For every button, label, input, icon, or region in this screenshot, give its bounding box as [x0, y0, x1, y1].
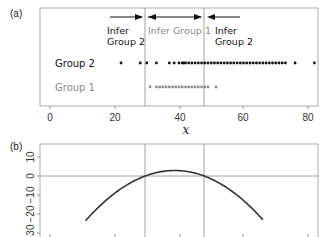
data-point [252, 62, 255, 65]
data-point [187, 86, 190, 89]
data-point [278, 62, 281, 65]
data-point [203, 62, 206, 65]
data-point [210, 62, 213, 65]
data-point [181, 86, 184, 89]
data-point [184, 86, 187, 89]
data-point [207, 86, 210, 89]
x-axis-label: x [183, 123, 190, 137]
data-point [197, 62, 200, 65]
arrow-head-left-icon-2 [207, 14, 215, 20]
y-tick-0: 0 [25, 173, 36, 179]
data-point [171, 86, 174, 89]
data-point [242, 62, 245, 65]
data-point [200, 62, 203, 65]
infer-mid: Infer Group 1 [148, 25, 211, 36]
data-point [268, 62, 271, 65]
x-tick-0: 0 [47, 112, 53, 123]
data-point [229, 62, 232, 65]
data-point [203, 86, 206, 89]
data-point [274, 62, 277, 65]
data-point [223, 62, 226, 65]
infer-left-line2: Group 2 [107, 36, 145, 47]
data-point [162, 86, 165, 89]
panel-b-label: (b) [10, 141, 22, 152]
plot-area-b [40, 144, 318, 237]
infer-right-line1: Infer [215, 25, 237, 36]
data-point [145, 62, 148, 65]
y-axis-b: 10 0 −10 −20 −30 [25, 151, 40, 237]
x-tick-80: 80 [302, 112, 314, 123]
data-point [200, 86, 203, 89]
data-point [232, 62, 235, 65]
data-point [155, 62, 158, 65]
data-point [271, 62, 274, 65]
data-point [184, 62, 187, 65]
data-point [281, 62, 284, 65]
data-point [313, 62, 316, 65]
group1-label: Group 1 [55, 82, 95, 93]
figure: (a) Infer Group 2 Infer Group 1 Infer Gr… [0, 0, 330, 237]
data-point [197, 86, 200, 89]
data-point [258, 62, 261, 65]
data-point [178, 86, 181, 89]
group1-points [149, 86, 218, 89]
panel-a-label: (a) [10, 8, 22, 19]
data-point [187, 62, 190, 65]
panel-b: (b) 10 0 −10 −20 −30 [10, 141, 318, 237]
data-point [255, 62, 258, 65]
data-point [149, 86, 152, 89]
arrow-head-left-icon [148, 14, 156, 20]
data-point [120, 62, 123, 65]
data-point [191, 62, 194, 65]
data-point [226, 62, 229, 65]
y-tick-10: 10 [25, 151, 36, 163]
data-point [236, 62, 239, 65]
y-tick-neg20: −20 [25, 205, 36, 222]
data-point [191, 86, 194, 89]
y-tick-neg30: −30 [25, 224, 36, 237]
data-point [139, 62, 142, 65]
x-tick-60: 60 [237, 112, 249, 123]
data-point [178, 62, 181, 65]
group2-label: Group 2 [55, 58, 95, 69]
data-point [265, 62, 268, 65]
data-point [215, 86, 218, 89]
x-tick-20: 20 [109, 112, 121, 123]
data-point [239, 62, 242, 65]
x-axis-a: 0 20 40 60 80 x [47, 106, 314, 137]
data-point [155, 86, 158, 89]
panel-a: (a) Infer Group 2 Infer Group 1 Infer Gr… [10, 8, 318, 137]
infer-left-line1: Infer [107, 25, 129, 36]
data-point [194, 62, 197, 65]
data-point [284, 62, 287, 65]
data-point [165, 86, 168, 89]
likelihood-curve [86, 171, 263, 221]
data-point [207, 62, 210, 65]
data-point [174, 86, 177, 89]
data-point [168, 62, 171, 65]
group2-points [120, 62, 316, 65]
y-tick-neg10: −10 [25, 186, 36, 203]
data-point [245, 62, 248, 65]
data-point [158, 86, 161, 89]
data-point [194, 86, 197, 89]
data-point [213, 62, 216, 65]
data-point [249, 62, 252, 65]
x-tick-40: 40 [174, 112, 186, 123]
data-point [216, 62, 219, 65]
data-point [262, 62, 265, 65]
infer-right-line2: Group 2 [215, 36, 253, 47]
data-point [168, 86, 171, 89]
data-point [294, 62, 297, 65]
data-point [173, 62, 176, 65]
data-point [220, 62, 223, 65]
